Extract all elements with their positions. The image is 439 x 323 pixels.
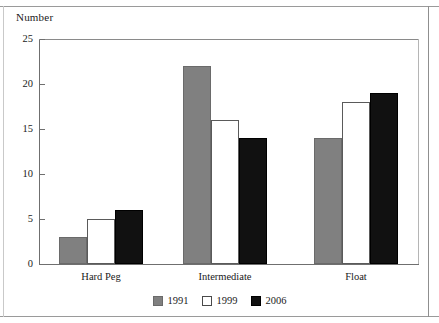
y-axis-tick — [40, 39, 45, 40]
bar-2006-float — [370, 93, 398, 264]
y-axis-tick-label: 20 — [23, 79, 34, 90]
legend-item-2006: 2006 — [251, 295, 287, 306]
x-axis-label-float: Float — [314, 271, 398, 282]
bar-1999-intermediate — [211, 120, 239, 264]
legend-item-label: 1999 — [217, 295, 238, 306]
x-axis-label-hard-peg: Hard Peg — [59, 271, 143, 282]
bar-1991-hard-peg — [59, 237, 87, 264]
bar-1999-hard-peg — [87, 219, 115, 264]
legend-item-1991: 1991 — [153, 295, 189, 306]
white-swatch-icon — [202, 296, 212, 306]
x-axis-label-intermediate: Intermediate — [183, 271, 267, 282]
y-axis-tick-labels: 0510152025 — [0, 39, 33, 265]
plot-right-border — [418, 39, 419, 265]
legend-item-label: 1991 — [168, 295, 189, 306]
bar-1991-float — [314, 138, 342, 264]
legend-item-1999: 1999 — [202, 295, 238, 306]
y-axis-tick-label: 25 — [23, 34, 34, 45]
legend-item-label: 2006 — [266, 295, 287, 306]
chart-legend: 199119992006 — [0, 295, 439, 306]
black-swatch-icon — [251, 296, 261, 306]
page-top-rule — [0, 6, 439, 7]
bar-2006-intermediate — [239, 138, 267, 264]
y-axis-tick-label: 0 — [28, 259, 33, 270]
gray-swatch-icon — [153, 296, 163, 306]
y-axis-tick-label: 5 — [28, 214, 33, 225]
page-right-rule — [428, 6, 429, 317]
x-axis-line — [39, 264, 419, 265]
y-axis-line — [39, 39, 40, 265]
bar-2006-hard-peg — [115, 210, 143, 264]
plot-area — [39, 39, 419, 265]
chart-page: Number 0510152025 Hard PegIntermediateFl… — [0, 0, 439, 323]
page-bottom-rule — [0, 316, 439, 317]
y-axis-tick — [40, 219, 45, 220]
y-axis-tick — [40, 84, 45, 85]
bar-1999-float — [342, 102, 370, 264]
y-axis-tick-label: 15 — [23, 124, 34, 135]
y-axis-title: Number — [16, 11, 53, 23]
plot-top-border — [39, 39, 419, 40]
bar-1991-intermediate — [183, 66, 211, 264]
y-axis-tick — [40, 129, 45, 130]
y-axis-tick-label: 10 — [23, 169, 34, 180]
y-axis-tick — [40, 174, 45, 175]
